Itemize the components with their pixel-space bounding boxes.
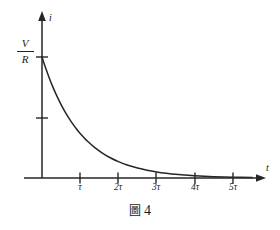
y-axis-arrowhead [38,11,46,21]
x-tick-label-3tau: 3τ [152,183,160,193]
fraction-numerator: V [12,38,38,50]
figure-caption: 圖4 [0,201,280,219]
figure-container: i t V R τ 2τ 3τ 4τ 5τ 圖4 [0,0,280,230]
fraction-bar [17,51,34,52]
fraction-denominator: R [12,54,38,66]
x-tick-label-1tau: τ [78,183,81,193]
x-tick-label-2tau: 2τ [114,183,122,193]
y-axis-label: i [49,13,52,23]
decay-curve [42,57,252,178]
x-axis-arrowhead [256,174,266,182]
figure-caption-number: 4 [144,203,151,218]
x-tick-label-4tau: 4τ [191,183,199,193]
exponential-decay-plot [0,0,280,230]
y-axis-value-label: V R [12,38,38,65]
figure-caption-symbol: 圖 [129,204,141,218]
x-tick-label-5tau: 5τ [229,183,237,193]
x-axis-label: t [266,163,269,173]
